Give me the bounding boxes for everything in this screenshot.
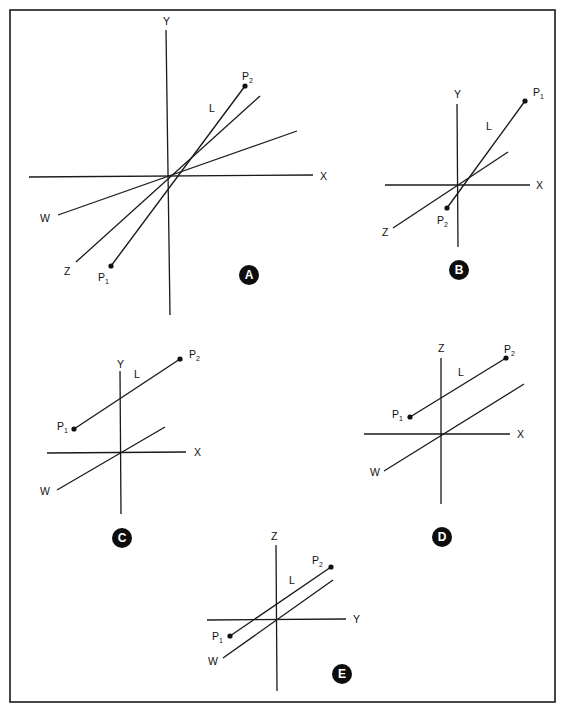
panel-badge-a: A <box>239 265 259 285</box>
point-p1-dot <box>227 633 232 638</box>
badge-letter: A <box>245 268 254 282</box>
axis-z <box>76 96 260 262</box>
point-p1-dot <box>407 414 412 419</box>
axis-label-z: Z <box>382 226 389 238</box>
panel-a: YXWZLP1P2A <box>29 15 327 315</box>
axis-w <box>384 384 524 471</box>
point-label-p1: P1 <box>392 408 403 422</box>
point-p2-dot <box>242 83 247 88</box>
point-label-p1: P1 <box>212 630 223 644</box>
panel-badge-e: E <box>332 664 352 684</box>
segment-label: L <box>486 120 492 132</box>
point-label-p1: P1 <box>533 86 544 100</box>
point-label-p2: P2 <box>437 214 448 228</box>
axis-w <box>57 427 165 490</box>
axis-label-x: X <box>517 428 524 440</box>
axis-label-x: X <box>320 170 327 182</box>
axis-y <box>120 371 121 514</box>
axis-label-w: W <box>40 485 50 497</box>
point-p1-dot <box>522 98 527 103</box>
point-p2-dot <box>328 564 333 569</box>
badge-letter: C <box>118 531 127 545</box>
axis-x <box>47 452 186 453</box>
point-label-p2: P2 <box>504 343 515 357</box>
point-label-p1: P1 <box>57 420 68 434</box>
axis-z <box>276 545 277 691</box>
axis-label-y: Y <box>117 358 124 370</box>
figure-frame <box>10 10 555 702</box>
point-p1-dot <box>108 263 113 268</box>
diagram-canvas: YXWZLP1P2AYXZLP1P2BYXWLP1P2CZXWLP1P2DZYW… <box>0 0 575 717</box>
segment-label: L <box>289 574 295 586</box>
panel-badge-b: B <box>449 260 469 280</box>
axis-label-y: Y <box>353 613 360 625</box>
axis-label-z: Z <box>64 265 71 277</box>
point-p2-dot <box>444 205 449 210</box>
axis-label-w: W <box>370 466 380 478</box>
panel-badge-c: C <box>112 528 132 548</box>
axis-label-y: Y <box>163 15 170 27</box>
axis-label-x: X <box>194 446 201 458</box>
panel-badge-d: D <box>432 527 452 547</box>
point-label-p2: P2 <box>189 348 200 362</box>
badge-letter: E <box>338 667 346 681</box>
line-segment-l <box>74 359 180 429</box>
axis-label-w: W <box>40 212 50 224</box>
segment-label: L <box>458 366 464 378</box>
point-p2-dot <box>503 355 508 360</box>
axis-label-z: Z <box>438 342 445 354</box>
panel-e: ZYWLP1P2E <box>207 530 360 691</box>
point-p1-dot <box>71 426 76 431</box>
line-segment-l <box>230 567 331 636</box>
panel-b: YXZLP1P2B <box>382 86 544 280</box>
axis-w <box>58 131 297 215</box>
point-label-p2: P2 <box>312 554 323 568</box>
panel-d: ZXWLP1P2D <box>364 342 524 547</box>
panel-c: YXWLP1P2C <box>40 348 201 548</box>
segment-label: L <box>209 102 215 114</box>
axis-y <box>457 104 458 247</box>
axis-label-y: Y <box>454 88 461 100</box>
badge-letter: D <box>438 530 447 544</box>
badge-letter: B <box>455 263 464 277</box>
point-label-p1: P1 <box>98 271 109 285</box>
axis-z <box>393 152 508 228</box>
segment-label: L <box>134 368 140 380</box>
axis-label-w: W <box>208 655 218 667</box>
point-p2-dot <box>177 356 182 361</box>
axis-label-x: X <box>536 179 543 191</box>
line-segment-l <box>447 101 525 208</box>
axis-label-z: Z <box>271 530 278 542</box>
axis-y <box>166 30 170 315</box>
point-label-p2: P2 <box>242 70 253 84</box>
panels: YXWZLP1P2AYXZLP1P2BYXWLP1P2CZXWLP1P2DZYW… <box>29 15 544 691</box>
